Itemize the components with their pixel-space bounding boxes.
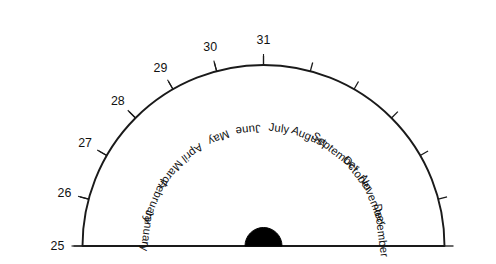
scale-leader-27 (97, 150, 107, 156)
arc-tick-11 (438, 197, 447, 199)
fan-outline (83, 65, 445, 246)
scale-label-29: 29 (154, 61, 168, 75)
scale-label-30: 30 (203, 40, 217, 54)
scale-label-28: 28 (111, 94, 125, 108)
arc-tick-9 (391, 112, 397, 118)
fan-outer-boundary (83, 65, 445, 246)
arc-tick-8 (354, 81, 359, 89)
scale-label-25: 25 (51, 239, 65, 253)
scale-leader-28 (128, 110, 136, 118)
arc-tick-10 (420, 151, 428, 156)
scale-leader-26 (78, 196, 89, 199)
scale-label-27: 27 (78, 136, 92, 150)
scale-leader-30 (214, 61, 217, 72)
scale-leader-29 (168, 80, 174, 90)
fan-diagram-svg: JanuaryFebruaryMarchAprilMayJuneJulyAugu… (0, 0, 496, 264)
fan-diagram-container: JanuaryFebruaryMarchAprilMayJuneJulyAugu… (0, 0, 496, 264)
scale-label-31: 31 (257, 33, 271, 47)
scale-label-26: 26 (58, 186, 72, 200)
arc-tick-7 (310, 62, 312, 71)
